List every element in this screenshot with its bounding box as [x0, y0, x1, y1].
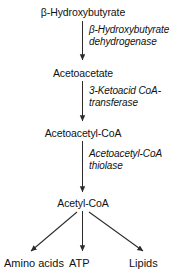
- node-acetoacetyl-coa: Acetoacetyl-CoA: [0, 127, 166, 139]
- enzyme-acetoacetyl-coa-thiolase: Acetoacetyl-CoA thiolase: [89, 148, 162, 171]
- enzyme-label-line-2: transferase: [89, 97, 161, 109]
- enzyme-label-line-2: thiolase: [89, 160, 162, 172]
- node-acetoacetate: Acetoacetate: [0, 67, 166, 79]
- enzyme-beta-hydroxybutyrate-dehydrogenase: β-Hydroxybutyrate dehydrogenase: [89, 24, 169, 47]
- node-beta-hydroxybutyrate: β-Hydroxybutyrate: [0, 6, 166, 18]
- arrow-acetyl-coa-to-amino-acids: [31, 212, 77, 251]
- product-amino-acids: Amino acids: [4, 257, 64, 269]
- product-lipids: Lipids: [129, 257, 158, 269]
- arrow-acetyl-coa-to-lipids: [89, 212, 143, 251]
- enzyme-label-line-2: dehydrogenase: [89, 36, 169, 48]
- pathway-diagram: β-Hydroxybutyrate Acetoacetate Acetoacet…: [0, 0, 185, 276]
- product-atp: ATP: [69, 257, 90, 269]
- enzyme-label-line-1: 3-Ketoacid CoA-: [89, 85, 161, 97]
- enzyme-3-ketoacid-coa-transferase: 3-Ketoacid CoA- transferase: [89, 85, 161, 108]
- enzyme-label-line-1: Acetoacetyl-CoA: [89, 148, 162, 160]
- node-acetyl-coa: Acetyl-CoA: [0, 197, 166, 209]
- enzyme-label-line-1: β-Hydroxybutyrate: [89, 24, 169, 36]
